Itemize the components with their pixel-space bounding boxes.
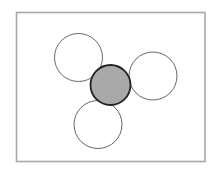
circle-bottom [74, 101, 122, 149]
diagram-canvas [0, 0, 217, 172]
circle-right [129, 52, 177, 100]
circle-center-shaded [91, 65, 131, 105]
